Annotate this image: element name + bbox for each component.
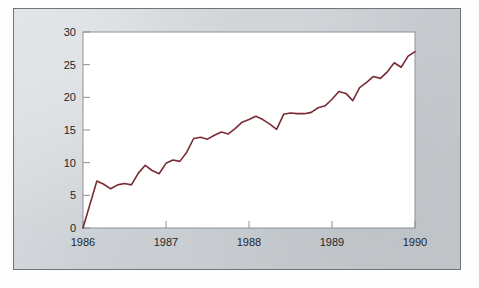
y-tick-label: 10 — [64, 157, 76, 169]
y-tick-label: 25 — [64, 59, 76, 71]
plot-area — [83, 32, 415, 228]
line-chart-plot: 051015202530 19861987198819891990 — [0, 0, 479, 288]
x-tick-label: 1986 — [71, 236, 95, 248]
y-tick-label: 20 — [64, 91, 76, 103]
x-axis-tick-labels: 19861987198819891990 — [71, 236, 427, 248]
chart-figure: 051015202530 19861987198819891990 — [0, 0, 479, 288]
y-tick-label: 0 — [70, 222, 76, 234]
y-tick-label: 15 — [64, 124, 76, 136]
x-tick-label: 1989 — [320, 236, 344, 248]
x-tick-label: 1987 — [154, 236, 178, 248]
x-tick-label: 1988 — [237, 236, 261, 248]
x-tick-label: 1990 — [403, 236, 427, 248]
y-tick-label: 30 — [64, 26, 76, 38]
y-tick-label: 5 — [70, 189, 76, 201]
y-axis-tick-labels: 051015202530 — [64, 26, 76, 234]
